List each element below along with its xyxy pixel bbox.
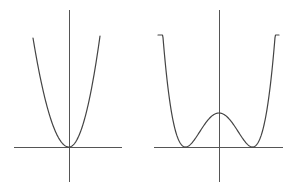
left-plot xyxy=(14,10,122,182)
right-plot xyxy=(154,10,283,182)
plots-svg xyxy=(0,0,292,192)
figure xyxy=(0,0,292,192)
left-curve-single-well xyxy=(33,36,100,147)
right-curve-double-well xyxy=(158,35,279,147)
